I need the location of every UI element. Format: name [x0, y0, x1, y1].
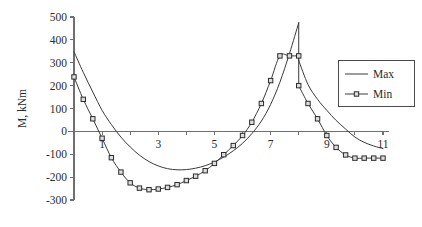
data-point-marker: [306, 101, 310, 105]
data-point-marker: [119, 170, 123, 174]
chart-legend: MaxMin: [338, 60, 414, 106]
y-axis-tick-label: 200: [50, 80, 68, 92]
data-point-marker: [222, 153, 226, 157]
data-point-marker: [184, 178, 188, 182]
data-point-marker: [156, 187, 160, 191]
chart-container: -300-200-10001002003004005001357911M, kN…: [0, 0, 422, 227]
y-axis-tick-label: 400: [50, 34, 68, 46]
data-point-marker: [91, 117, 95, 121]
series-group: [72, 23, 385, 192]
data-point-marker: [278, 54, 282, 58]
data-point-marker: [381, 156, 385, 160]
data-point-marker: [343, 153, 347, 157]
x-axis-tick-label: 7: [268, 138, 274, 150]
data-point-marker: [231, 143, 235, 147]
data-point-marker: [128, 181, 132, 185]
data-point-marker: [137, 186, 141, 190]
y-axis-tick-label: -300: [46, 194, 67, 206]
data-point-marker: [240, 133, 244, 137]
legend-label-max: Max: [373, 68, 394, 80]
data-point-marker: [268, 78, 272, 82]
x-axis-tick-label: 3: [155, 138, 161, 150]
data-point-marker: [175, 182, 179, 186]
data-point-marker: [297, 83, 301, 87]
data-point-marker: [372, 156, 376, 160]
data-point-marker: [203, 169, 207, 173]
x-axis-tick-label: 5: [212, 138, 218, 150]
data-point-marker: [362, 156, 366, 160]
data-point-marker: [334, 145, 338, 149]
data-point-marker: [193, 174, 197, 178]
x-axis-tick-label: 11: [377, 138, 388, 150]
data-point-marker: [165, 185, 169, 189]
data-point-marker: [315, 117, 319, 121]
y-axis-title: M, kNm: [16, 89, 29, 128]
data-point-marker: [287, 54, 291, 58]
legend-marker-min: [354, 92, 358, 96]
data-point-marker: [259, 101, 263, 105]
y-axis-tick-label: 100: [50, 103, 68, 115]
data-point-marker: [353, 156, 357, 160]
data-point-marker: [250, 120, 254, 124]
y-axis-tick-label: -200: [46, 171, 67, 183]
data-point-marker: [147, 188, 151, 192]
x-axis-tick-label: 9: [324, 138, 330, 150]
data-point-marker: [325, 133, 329, 137]
data-point-marker: [81, 97, 85, 101]
series-line-min: [74, 54, 383, 190]
y-axis-tick-label: 500: [50, 11, 68, 23]
data-point-marker: [297, 54, 301, 58]
data-point-marker: [109, 155, 113, 159]
data-point-marker: [212, 161, 216, 165]
y-axis-tick-label: 0: [61, 125, 67, 137]
x-axis-tick-label: 1: [99, 138, 105, 150]
legend-label-min: Min: [373, 88, 392, 100]
axes-group: [68, 17, 389, 200]
y-axis-tick-label: 300: [50, 57, 68, 69]
data-point-marker: [72, 75, 76, 79]
y-axis-tick-label: -100: [46, 148, 67, 160]
chart-plot: -300-200-10001002003004005001357911M, kN…: [0, 0, 422, 227]
